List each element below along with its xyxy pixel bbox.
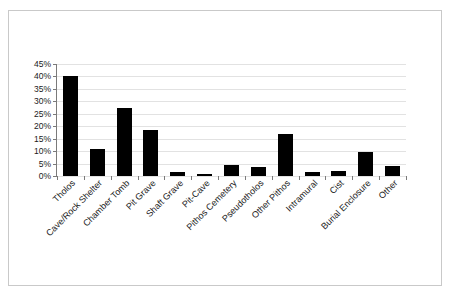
bar-slot xyxy=(57,64,84,176)
bar xyxy=(358,152,373,176)
y-tick-label: 40% xyxy=(34,72,51,81)
y-tick-label: 0% xyxy=(39,172,51,181)
bar xyxy=(224,165,239,176)
x-axis-labels: TholosCave/Rock ShelterChamber TombPit G… xyxy=(57,178,406,278)
y-tick-label: 30% xyxy=(34,97,51,106)
bar-series xyxy=(57,64,406,176)
plot-area: 45%40%35%30%25%20%15%10%5%0% xyxy=(57,64,406,176)
bar xyxy=(251,167,266,176)
y-tick-label: 20% xyxy=(34,122,51,131)
bar-slot xyxy=(84,64,111,176)
bar-slot xyxy=(299,64,326,176)
bar xyxy=(117,108,132,176)
bar-slot xyxy=(325,64,352,176)
bar xyxy=(278,134,293,176)
bar xyxy=(170,172,185,176)
bar-slot xyxy=(138,64,165,176)
chart-figure: 45%40%35%30%25%20%15%10%5%0% TholosCave/… xyxy=(8,10,442,286)
y-tick-label: 10% xyxy=(34,147,51,156)
bar-slot xyxy=(245,64,272,176)
bar xyxy=(143,130,158,176)
bar xyxy=(331,171,346,176)
y-tick-label: 25% xyxy=(34,110,51,119)
bar-slot xyxy=(191,64,218,176)
bar-slot xyxy=(164,64,191,176)
bar xyxy=(305,172,320,176)
bar-slot xyxy=(218,64,245,176)
y-tick-label: 45% xyxy=(34,60,51,69)
bar-slot xyxy=(352,64,379,176)
bar xyxy=(63,76,78,176)
bar xyxy=(197,174,212,176)
bar-slot xyxy=(272,64,299,176)
y-tick-label: 15% xyxy=(34,134,51,143)
x-axis-label: Other xyxy=(377,178,400,201)
y-tick-label: 5% xyxy=(39,159,51,168)
x-axis-label: Cist xyxy=(328,178,346,196)
bar xyxy=(90,149,105,176)
bar-slot xyxy=(111,64,138,176)
x-tick-mark xyxy=(406,176,407,180)
x-axis-label: Burial Enclosure xyxy=(319,178,372,231)
bar xyxy=(385,166,400,176)
bar-slot xyxy=(379,64,406,176)
y-tick-label: 35% xyxy=(34,85,51,94)
